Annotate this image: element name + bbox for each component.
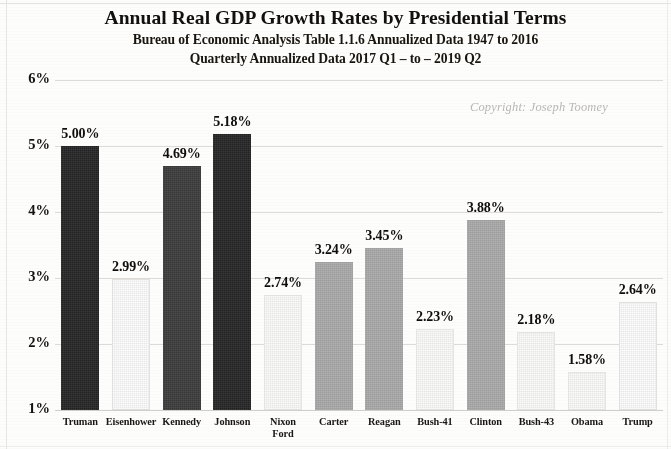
y-axis-tick-2: 2% [28, 334, 50, 351]
bar-value-obama: 1.58% [561, 352, 613, 368]
bar-kennedy[interactable] [163, 166, 201, 410]
bar-value-reagan: 3.45% [358, 228, 410, 244]
bar-value-eisenhower: 2.99% [105, 259, 157, 275]
y-axis-tick-6: 6% [28, 70, 50, 87]
bar-value-truman: 5.00% [54, 126, 106, 142]
y-axis-tick-5: 5% [28, 136, 50, 153]
bar-value-nixon-ford: 2.74% [257, 275, 309, 291]
chart-title: Annual Real GDP Growth Rates by Presiden… [0, 6, 671, 30]
gridline-6 [55, 80, 663, 81]
bar-eisenhower[interactable] [112, 279, 150, 410]
bar-reagan[interactable] [365, 248, 403, 410]
gridline-4 [55, 212, 663, 213]
x-axis-baseline [55, 410, 663, 411]
plot-area: 5.00%2.99%4.69%5.18%2.74%3.24%3.45%2.23%… [55, 80, 663, 410]
gridline-5 [55, 146, 663, 147]
bar-truman[interactable] [61, 146, 99, 410]
x-axis-labels: TrumanEisenhowerKennedyJohnsonNixon Ford… [55, 412, 663, 448]
y-axis-tick-1: 1% [28, 400, 50, 417]
x-axis-label-trump: Trump [606, 416, 669, 428]
bar-value-clinton: 3.88% [460, 200, 512, 216]
bar-johnson[interactable] [213, 134, 251, 410]
y-axis-tick-4: 4% [28, 202, 50, 219]
chart-subtitle-line2: Quarterly Annualized Data 2017 Q1 – to –… [0, 49, 671, 68]
chart-title-block: Annual Real GDP Growth Rates by Presiden… [0, 6, 671, 68]
bar-clinton[interactable] [467, 220, 505, 410]
bar-value-johnson: 5.18% [206, 114, 258, 130]
scan-edge-top [0, 3, 671, 4]
bar-bush-41[interactable] [416, 329, 454, 410]
chart-subtitle-line1: Bureau of Economic Analysis Table 1.1.6 … [0, 30, 671, 49]
bar-carter[interactable] [315, 262, 353, 410]
bar-value-kennedy: 4.69% [156, 146, 208, 162]
y-axis-labels: 6%5%4%3%2%1% [0, 80, 50, 410]
bar-trump[interactable] [619, 302, 657, 410]
chart-page: Annual Real GDP Growth Rates by Presiden… [0, 0, 671, 449]
bar-value-bush-43: 2.18% [510, 312, 562, 328]
y-axis-tick-3: 3% [28, 268, 50, 285]
bar-nixon-ford[interactable] [264, 295, 302, 410]
bar-value-bush-41: 2.23% [409, 309, 461, 325]
bar-obama[interactable] [568, 372, 606, 410]
bar-bush-43[interactable] [517, 332, 555, 410]
bar-value-trump: 2.64% [612, 282, 664, 298]
bar-value-carter: 3.24% [308, 242, 360, 258]
